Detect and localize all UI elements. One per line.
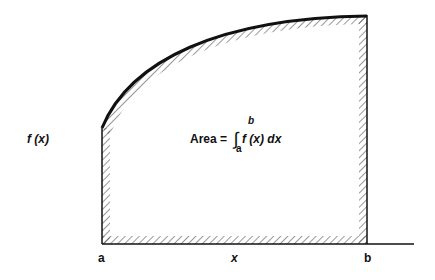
x-axis-label: x	[231, 251, 238, 265]
integrand: f (x) dx	[242, 132, 281, 146]
formula-prefix: Area =	[190, 132, 230, 146]
lower-bound-label: a	[98, 251, 105, 265]
y-axis-label: f (x)	[27, 132, 49, 146]
upper-bound-label: b	[364, 251, 371, 265]
integral-lower-limit: a	[236, 143, 242, 154]
area-formula: Area = ∫ b a f (x) dx	[190, 127, 281, 148]
integral-upper-limit: b	[248, 115, 254, 126]
function-curve	[102, 16, 367, 128]
